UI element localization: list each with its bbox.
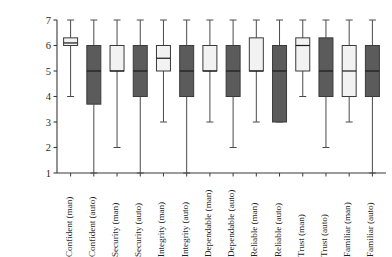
boxplot-box xyxy=(180,20,194,173)
y-tick-label: 4 xyxy=(46,91,52,102)
x-axis-tick-label: Dependable (auto) xyxy=(224,181,238,257)
boxplot-figure: Raw scale score 1234567 Confident (man)C… xyxy=(0,0,392,257)
box-rect xyxy=(249,38,263,71)
boxplot-box xyxy=(133,20,147,173)
boxplot-box xyxy=(110,20,124,148)
y-tick-label: 5 xyxy=(46,66,51,77)
box-rect xyxy=(296,38,310,71)
box-rect xyxy=(64,38,78,46)
y-tick-label: 2 xyxy=(46,142,51,153)
plot-area: 1234567 xyxy=(40,14,388,180)
x-axis-tick-label: Security (auto) xyxy=(131,181,145,257)
x-axis-tick-label: Reliable (man) xyxy=(247,181,261,257)
y-tick-label: 7 xyxy=(46,15,51,26)
boxplot-box xyxy=(249,20,263,122)
boxplot-box xyxy=(87,20,101,173)
boxplot-box xyxy=(273,20,287,122)
x-axis-tick-label: Familiar (man) xyxy=(340,181,354,257)
boxplot-box xyxy=(156,20,170,122)
box-rect xyxy=(203,46,217,72)
x-axis-tick-label: Reliable (auto) xyxy=(271,181,285,257)
x-axis-tick-label: Security (man) xyxy=(108,181,122,257)
boxplot-svg: 1234567 xyxy=(40,14,388,180)
y-tick-label: 1 xyxy=(46,168,51,179)
boxplot-box xyxy=(365,20,379,173)
y-tick-label: 6 xyxy=(46,40,51,51)
boxplot-box xyxy=(226,20,240,148)
box-rect xyxy=(87,46,101,105)
x-axis-labels: Confident (man)Confident (auto)Security … xyxy=(40,180,388,257)
x-axis-tick-label: Trust (man) xyxy=(294,181,308,257)
x-axis-tick-label: Integrity (man) xyxy=(154,181,168,257)
x-axis-tick-label: Trust (auto) xyxy=(317,181,331,257)
boxplot-box xyxy=(342,20,356,122)
box-rect xyxy=(273,46,287,123)
boxplot-box xyxy=(64,20,78,97)
x-axis-tick-label: Familiar (auto) xyxy=(363,181,377,257)
boxplot-box xyxy=(203,20,217,122)
box-rect xyxy=(319,38,333,97)
x-axis-tick-label: Confident (man) xyxy=(62,181,76,257)
y-tick-label: 3 xyxy=(46,117,51,128)
x-axis-tick-label: Dependable (man) xyxy=(201,181,215,257)
x-axis-tick-label: Confident (auto) xyxy=(85,181,99,257)
boxplot-box xyxy=(296,20,310,97)
box-rect xyxy=(110,46,124,72)
boxplot-box xyxy=(319,20,333,148)
x-axis-tick-label: Integrity (auto) xyxy=(178,181,192,257)
